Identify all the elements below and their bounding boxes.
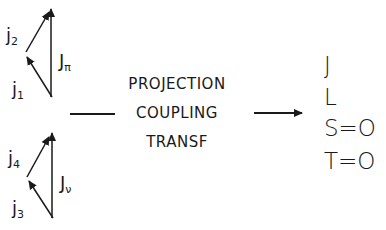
transform-line-coupling: COUPLING — [112, 106, 242, 121]
result-j: J — [324, 54, 331, 77]
j2-vector — [26, 12, 49, 52]
transform-line-projection: PROJECTION — [112, 77, 242, 92]
top-coupling-triangle — [26, 9, 52, 97]
j4-vector — [27, 137, 49, 177]
label-j-nu: Jν — [60, 174, 71, 192]
label-j1: j1 — [12, 80, 24, 98]
label-j-pi: Jπ — [59, 52, 71, 70]
result-t: T=O — [324, 150, 375, 173]
bottom-coupling-triangle — [27, 133, 53, 218]
transform-line-transf: TRANSF — [112, 135, 242, 150]
j3-vector — [29, 181, 53, 218]
label-j3: j3 — [12, 199, 24, 217]
j1-vector — [27, 57, 52, 97]
result-l: L — [324, 86, 337, 109]
label-j4: j4 — [8, 149, 20, 167]
result-s: S=O — [324, 117, 376, 140]
label-j2: j2 — [6, 26, 18, 44]
